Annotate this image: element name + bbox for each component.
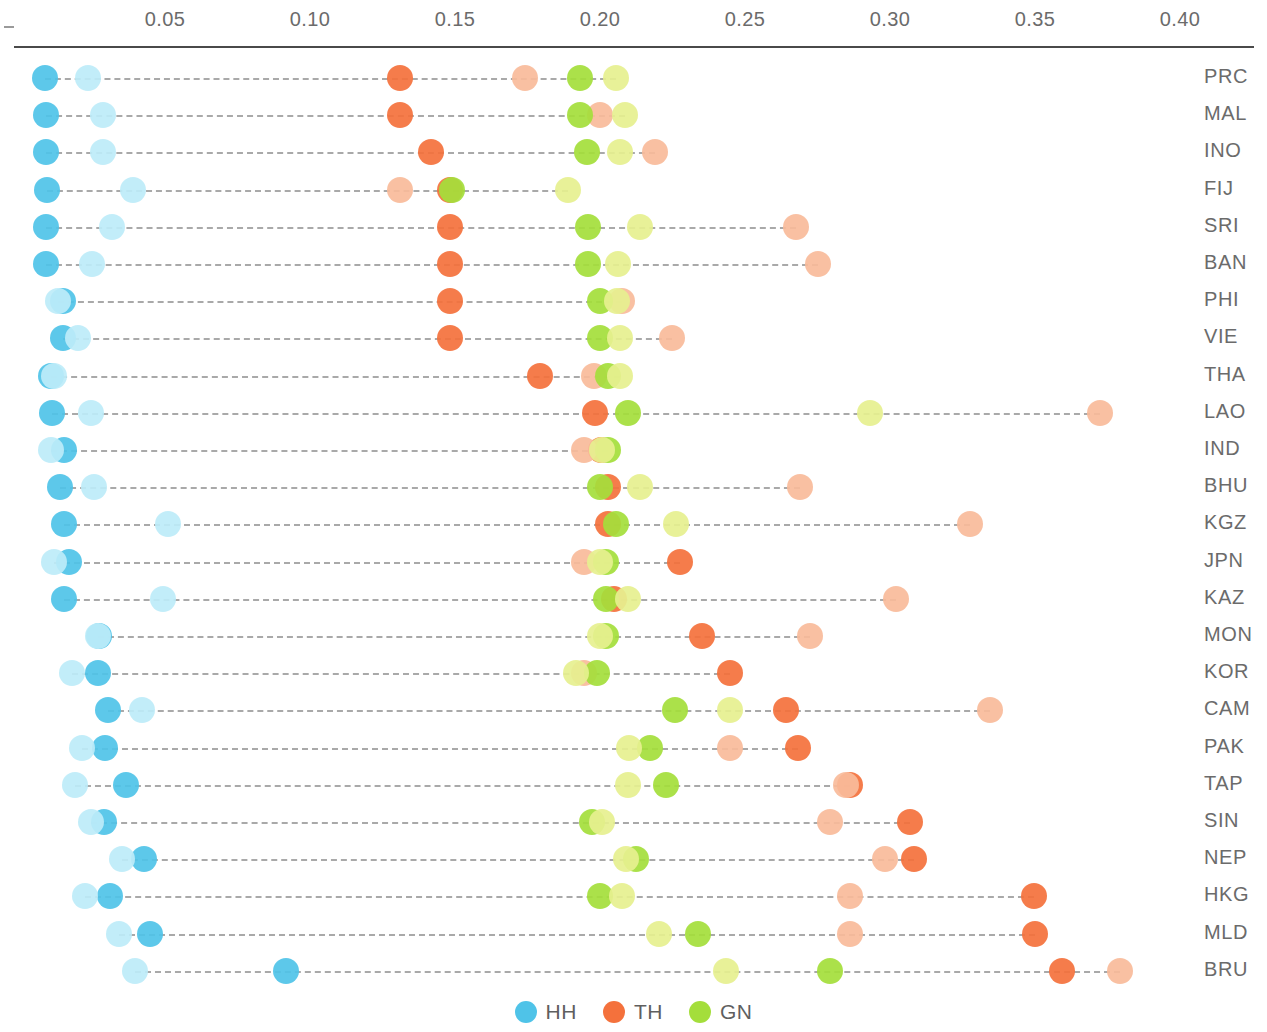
dot-hh_l-hkg[interactable] — [72, 883, 98, 909]
dot-th-hkg[interactable] — [1021, 883, 1047, 909]
dot-gn_l-phi[interactable] — [604, 288, 630, 314]
dot-gn_l-nep[interactable] — [613, 846, 639, 872]
dot-hh_l-lao[interactable] — [78, 400, 104, 426]
dot-gn-mld[interactable] — [685, 921, 711, 947]
legend-item-th[interactable]: TH — [603, 1000, 663, 1024]
dot-hh-sri[interactable] — [33, 214, 59, 240]
dot-hh-bhu[interactable] — [47, 474, 73, 500]
dot-th-ino[interactable] — [418, 139, 444, 165]
dot-gn_l-prc[interactable] — [603, 65, 629, 91]
dot-gn_l-tap[interactable] — [615, 772, 641, 798]
legend-item-hh[interactable]: HH — [515, 1000, 577, 1024]
dot-gn_l-sri[interactable] — [627, 214, 653, 240]
dot-th-kor[interactable] — [717, 660, 743, 686]
dot-hh-kgz[interactable] — [51, 511, 77, 537]
dot-hh-bru[interactable] — [273, 958, 299, 984]
dot-hh_l-prc[interactable] — [75, 65, 101, 91]
dot-gn_l-kaz[interactable] — [615, 586, 641, 612]
dot-gn_l-lao[interactable] — [857, 400, 883, 426]
dot-th_l-bru[interactable] — [1107, 958, 1133, 984]
dot-th_l-hkg[interactable] — [837, 883, 863, 909]
dot-th-pak[interactable] — [785, 735, 811, 761]
dot-th-sri[interactable] — [437, 214, 463, 240]
dot-gn_l-kgz[interactable] — [663, 511, 689, 537]
dot-th-cam[interactable] — [773, 697, 799, 723]
dot-gn_l-cam[interactable] — [717, 697, 743, 723]
dot-hh_l-kor[interactable] — [59, 660, 85, 686]
legend-item-gn[interactable]: GN — [689, 1000, 753, 1024]
dot-hh_l-sri[interactable] — [99, 214, 125, 240]
dot-th_l-prc[interactable] — [512, 65, 538, 91]
dot-gn_l-bru[interactable] — [713, 958, 739, 984]
dot-th_l-nep[interactable] — [872, 846, 898, 872]
dot-hh_l-ino[interactable] — [90, 139, 116, 165]
dot-th_l-mld[interactable] — [837, 921, 863, 947]
dot-hh_l-mal[interactable] — [90, 102, 116, 128]
dot-th_l-lao[interactable] — [1087, 400, 1113, 426]
dot-gn_l-mld[interactable] — [646, 921, 672, 947]
dot-th_l-ban[interactable] — [805, 251, 831, 277]
dot-th-sin[interactable] — [897, 809, 923, 835]
dot-th_l-kgz[interactable] — [957, 511, 983, 537]
dot-gn_l-pak[interactable] — [616, 735, 642, 761]
dot-th-tha[interactable] — [527, 363, 553, 389]
dot-hh_l-fij[interactable] — [120, 177, 146, 203]
dot-th_l-ino[interactable] — [642, 139, 668, 165]
dot-gn-mal[interactable] — [567, 102, 593, 128]
dot-gn_l-jpn[interactable] — [587, 549, 613, 575]
dot-gn_l-bhu[interactable] — [627, 474, 653, 500]
dot-hh-kor[interactable] — [85, 660, 111, 686]
dot-th-lao[interactable] — [582, 400, 608, 426]
dot-hh_l-jpn[interactable] — [41, 549, 67, 575]
dot-hh_l-kaz[interactable] — [150, 586, 176, 612]
dot-th_l-sin[interactable] — [817, 809, 843, 835]
dot-gn_l-ino[interactable] — [607, 139, 633, 165]
dot-gn_l-sin[interactable] — [589, 809, 615, 835]
dot-hh_l-bru[interactable] — [122, 958, 148, 984]
dot-th_l-cam[interactable] — [977, 697, 1003, 723]
dot-gn-ino[interactable] — [574, 139, 600, 165]
dot-hh_l-mld[interactable] — [106, 921, 132, 947]
dot-hh_l-bhu[interactable] — [81, 474, 107, 500]
dot-hh-kaz[interactable] — [51, 586, 77, 612]
dot-gn_l-hkg[interactable] — [609, 883, 635, 909]
dot-th-mld[interactable] — [1022, 921, 1048, 947]
dot-th-phi[interactable] — [437, 288, 463, 314]
dot-hh_l-ban[interactable] — [79, 251, 105, 277]
dot-hh-hkg[interactable] — [97, 883, 123, 909]
dot-th_l-kaz[interactable] — [883, 586, 909, 612]
dot-th-prc[interactable] — [387, 65, 413, 91]
dot-th-ban[interactable] — [437, 251, 463, 277]
dot-hh_l-kgz[interactable] — [155, 511, 181, 537]
dot-hh_l-tha[interactable] — [41, 363, 67, 389]
dot-th-jpn[interactable] — [667, 549, 693, 575]
dot-gn_l-tha[interactable] — [607, 363, 633, 389]
dot-th-vie[interactable] — [437, 325, 463, 351]
dot-gn_l-ind[interactable] — [589, 437, 615, 463]
dot-hh-pak[interactable] — [92, 735, 118, 761]
dot-gn_l-ban[interactable] — [605, 251, 631, 277]
dot-hh-mld[interactable] — [137, 921, 163, 947]
dot-hh-cam[interactable] — [95, 697, 121, 723]
dot-th_l-mon[interactable] — [797, 623, 823, 649]
dot-gn_l-vie[interactable] — [607, 325, 633, 351]
dot-gn-prc[interactable] — [567, 65, 593, 91]
dot-gn_l-kor[interactable] — [563, 660, 589, 686]
dot-th_l-vie[interactable] — [659, 325, 685, 351]
dot-hh_l-sin[interactable] — [78, 809, 104, 835]
dot-th_l-bhu[interactable] — [787, 474, 813, 500]
dot-th-nep[interactable] — [901, 846, 927, 872]
dot-hh_l-nep[interactable] — [109, 846, 135, 872]
dot-th_l-fij[interactable] — [387, 177, 413, 203]
dot-gn-bhu[interactable] — [587, 474, 613, 500]
dot-hh_l-tap[interactable] — [62, 772, 88, 798]
dot-hh-prc[interactable] — [32, 65, 58, 91]
dot-hh_l-mon[interactable] — [85, 623, 111, 649]
dot-th-mon[interactable] — [689, 623, 715, 649]
dot-gn-bru[interactable] — [817, 958, 843, 984]
dot-hh_l-cam[interactable] — [129, 697, 155, 723]
dot-hh-ino[interactable] — [33, 139, 59, 165]
dot-hh-tap[interactable] — [113, 772, 139, 798]
dot-th_l-tap[interactable] — [833, 772, 859, 798]
dot-gn-lao[interactable] — [615, 400, 641, 426]
